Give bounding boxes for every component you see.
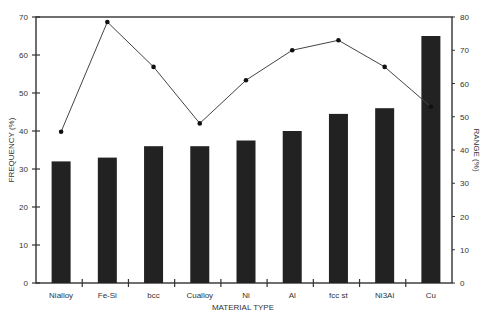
y-tick-label-right: 40 [460, 146, 469, 155]
y-tick-label-left: 40 [19, 127, 28, 136]
y-tick-label-right: 50 [460, 113, 469, 122]
y-tick-label-right: 10 [460, 246, 469, 255]
y-tick-label-left: 60 [19, 51, 28, 60]
x-tick-label: Ni [242, 291, 250, 300]
chart: 01020304050607001020304050607080NialloyF… [0, 0, 484, 323]
x-tick-label: Al [289, 291, 296, 300]
x-axis-title: MATERIAL TYPE [212, 303, 274, 312]
x-tick-label: Ni3Al [375, 291, 394, 300]
y-tick-label-right: 0 [460, 279, 465, 288]
bar [329, 114, 348, 283]
y-axis-title-right: RANGE (%) [472, 128, 481, 171]
bar [98, 158, 117, 283]
line-marker [382, 65, 387, 70]
line-marker [429, 104, 434, 109]
y-tick-label-left: 0 [24, 279, 29, 288]
bar [144, 146, 163, 283]
line-marker [105, 20, 110, 25]
y-tick-label-left: 30 [19, 165, 28, 174]
line-marker [336, 38, 341, 43]
line-marker [151, 65, 156, 70]
bar [52, 161, 71, 283]
y-tick-label-right: 80 [460, 13, 469, 22]
line-marker [290, 48, 295, 53]
y-tick-label-left: 10 [19, 241, 28, 250]
bar [283, 131, 302, 283]
bar [190, 146, 209, 283]
line-marker [197, 121, 202, 126]
y-tick-label-right: 60 [460, 80, 469, 89]
x-tick-label: fcc st [329, 291, 348, 300]
bar [421, 36, 440, 283]
line-marker [244, 78, 249, 83]
y-tick-label-left: 50 [19, 89, 28, 98]
x-tick-label: Cualloy [186, 291, 213, 300]
bar [375, 108, 394, 283]
y-tick-label-left: 20 [19, 203, 28, 212]
x-tick-label: Fe-Si [98, 291, 117, 300]
y-tick-label-right: 70 [460, 46, 469, 55]
bar-series [52, 36, 441, 283]
y-tick-label-left: 70 [19, 13, 28, 22]
y-axis-title-left: FREQUENCY (%) [7, 117, 16, 182]
x-tick-label: Cu [426, 291, 436, 300]
x-tick-label: bcc [147, 291, 159, 300]
line-marker [59, 129, 64, 134]
y-tick-label-right: 20 [460, 213, 469, 222]
y-tick-label-right: 30 [460, 179, 469, 188]
bar [237, 141, 256, 284]
x-tick-label: Nialloy [49, 291, 73, 300]
